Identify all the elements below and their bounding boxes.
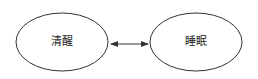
- node-sleep-label: 睡眠: [174, 36, 218, 48]
- state-diagram: [0, 0, 258, 79]
- node-awake-label: 清醒: [40, 36, 84, 48]
